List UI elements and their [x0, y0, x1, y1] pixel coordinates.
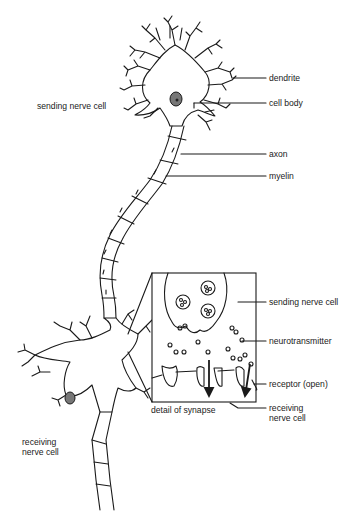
- label-cell-body: cell body: [269, 98, 303, 108]
- label-axon: axon: [269, 149, 288, 159]
- label-inset-receiving-nerve-cell: receiving nerve cell: [269, 403, 306, 423]
- label-detail-of-synapse: detail of synapse: [151, 405, 216, 415]
- label-line: receiving: [22, 437, 59, 447]
- label-receptor-open: receptor (open): [269, 379, 328, 389]
- label-neurotransmitter: neurotransmitter: [269, 336, 332, 346]
- label-sending-nerve-cell: sending nerve cell: [37, 101, 106, 111]
- label-dendrite: dendrite: [269, 73, 300, 83]
- label-receiving-nerve-cell: receiving nerve cell: [22, 437, 59, 457]
- label-myelin: myelin: [269, 171, 294, 181]
- receiving-axon: [92, 412, 114, 510]
- receiving-nucleus: [65, 392, 75, 404]
- label-line: nerve cell: [269, 413, 306, 423]
- label-line: receiving: [269, 403, 306, 413]
- synapse-inset: [128, 273, 257, 402]
- label-inset-sending-nerve-cell: sending nerve cell: [269, 297, 338, 307]
- sending-neuron: [120, 16, 236, 130]
- label-line: nerve cell: [22, 447, 59, 457]
